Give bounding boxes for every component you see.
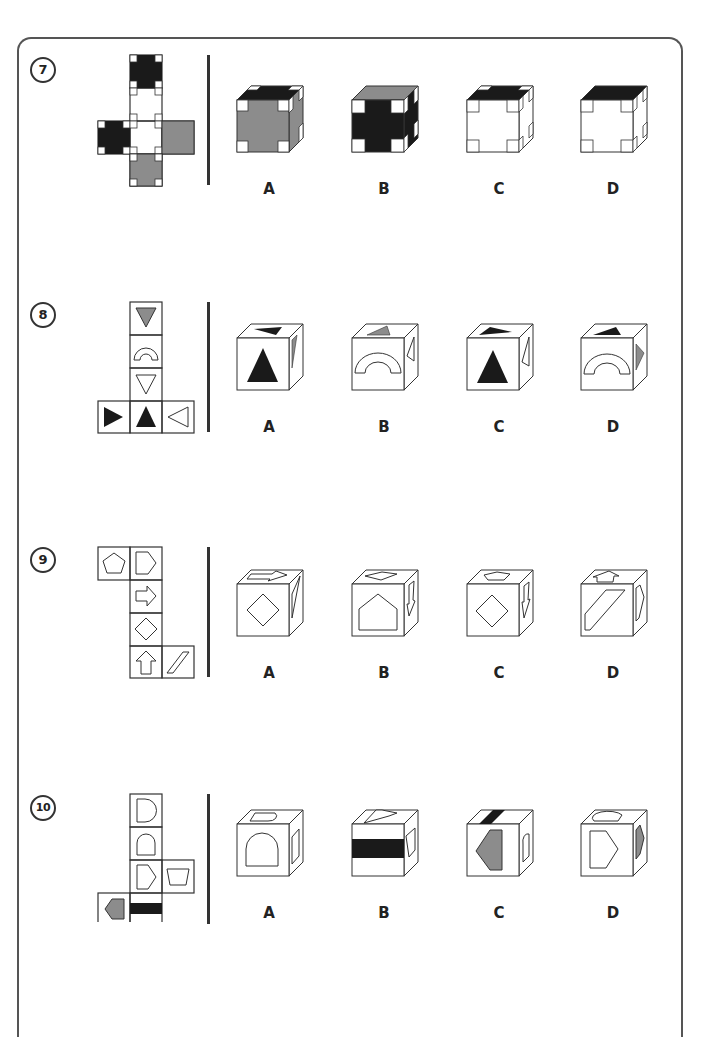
option-label: A [232,180,306,198]
cube-option-c [462,564,542,664]
divider [207,55,210,185]
option-label: D [576,664,650,682]
problem-7: 7 [0,0,708,200]
cube-option-a [232,564,312,664]
option-label: C [462,418,536,436]
option-label: C [462,664,536,682]
problem-10: 10 A [0,722,708,922]
cube-option-b [347,564,427,664]
option-label: B [347,180,421,198]
cube-option-c [462,804,542,904]
option-c[interactable]: C [462,564,542,674]
cube-option-d [576,804,656,904]
option-c[interactable]: C [462,318,542,428]
cube-option-a [232,804,312,904]
problem-9: 9 A [0,482,708,682]
option-b[interactable]: B [347,318,427,428]
option-label: C [462,904,536,922]
cube-net-8 [0,240,210,440]
cube-option-b [347,80,427,180]
cube-option-b [347,804,427,904]
divider [207,794,210,924]
option-a[interactable]: A [232,564,312,674]
option-c[interactable]: C [462,80,542,190]
cube-net-9 [0,482,210,682]
option-label: D [576,418,650,436]
cube-option-d [576,564,656,664]
cube-option-b [347,318,427,418]
problem-8: 8 A [0,240,708,440]
option-a[interactable]: A [232,80,312,190]
cube-option-a [232,318,312,418]
cube-option-a [232,80,312,180]
option-d[interactable]: D [576,804,656,914]
option-label: D [576,904,650,922]
option-label: A [232,904,306,922]
option-label: B [347,418,421,436]
cube-net-7 [0,0,210,200]
cube-option-d [576,318,656,418]
option-a[interactable]: A [232,804,312,914]
option-d[interactable]: D [576,318,656,428]
option-label: A [232,664,306,682]
option-c[interactable]: C [462,804,542,914]
option-label: C [462,180,536,198]
option-b[interactable]: B [347,564,427,674]
option-label: B [347,664,421,682]
cube-option-c [462,80,542,180]
option-b[interactable]: B [347,80,427,190]
cube-option-d [576,80,656,180]
cube-net-10 [0,722,210,922]
option-d[interactable]: D [576,564,656,674]
option-a[interactable]: A [232,318,312,428]
option-b[interactable]: B [347,804,427,914]
divider [207,302,210,432]
option-label: B [347,904,421,922]
option-d[interactable]: D [576,80,656,190]
option-label: A [232,418,306,436]
cube-option-c [462,318,542,418]
divider [207,547,210,677]
option-label: D [576,180,650,198]
